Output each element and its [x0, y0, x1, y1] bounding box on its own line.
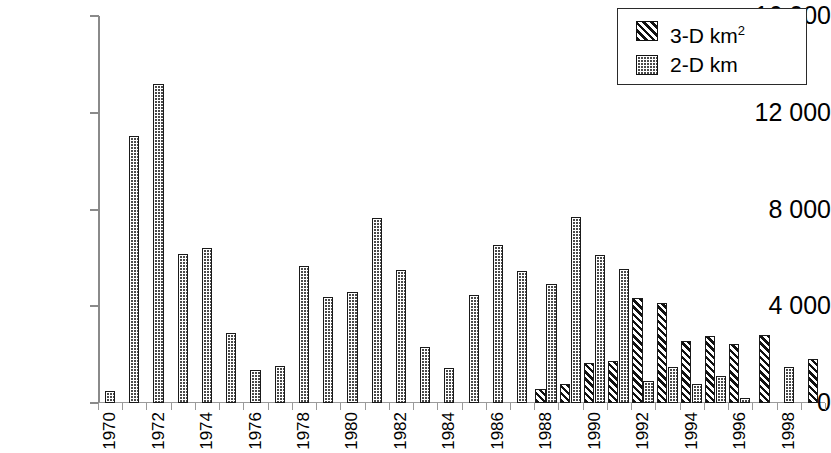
x-axis-tick-label: 1980 [343, 412, 360, 450]
bar-2d [643, 381, 653, 403]
x-axis-tick-label: 1990 [586, 412, 603, 450]
bar-2d [250, 370, 260, 403]
x-axis-tick [413, 403, 414, 410]
bar-3d [608, 361, 618, 403]
x-axis-tick [704, 403, 705, 410]
x-axis-tick-label: 1982 [392, 412, 409, 450]
diagonal-hatch-swatch [636, 21, 658, 41]
bar-2d [469, 295, 479, 403]
legend-label-3d-text: 3-D km [670, 24, 738, 47]
x-axis-tick [777, 403, 778, 410]
legend-label-3d-superscript: 2 [738, 23, 745, 38]
bar-2d [420, 347, 430, 403]
x-axis-tick [389, 403, 390, 410]
bar-2d [493, 245, 503, 403]
x-axis-tick [510, 403, 511, 410]
x-axis-tick [462, 403, 463, 410]
x-axis-tick [146, 403, 147, 410]
x-axis-tick [680, 403, 681, 410]
x-axis-tick [340, 403, 341, 410]
x-axis-tick [728, 403, 729, 410]
bar-2d [517, 271, 527, 403]
bar-3d [535, 389, 545, 404]
x-axis-tick-label: 1996 [731, 412, 748, 450]
x-axis-tick [631, 403, 632, 410]
x-axis-tick-label: 1994 [683, 412, 700, 450]
bar-2d [299, 266, 309, 403]
bar-2d [716, 376, 726, 403]
bar-2d [347, 292, 357, 403]
bar-2d [396, 270, 406, 403]
bar-2d [275, 366, 285, 403]
x-axis-tick [825, 403, 826, 410]
x-axis-tick [365, 403, 366, 410]
x-axis-tick [437, 403, 438, 410]
x-axis-tick [655, 403, 656, 410]
bar-2d [202, 248, 212, 403]
legend-label-3d: 3-D km2 [670, 19, 745, 48]
bar-3d [729, 344, 739, 403]
bar-3d [681, 341, 691, 403]
bar-2d [178, 254, 188, 403]
x-axis-tick [752, 403, 753, 410]
x-axis-tick-label: 1970 [101, 412, 118, 450]
x-axis-tick-label: 1974 [198, 412, 215, 450]
x-axis-tick [171, 403, 172, 410]
bar-3d [632, 298, 642, 403]
x-axis-tick [195, 403, 196, 410]
bar-2d [226, 333, 236, 403]
x-axis-tick [268, 403, 269, 410]
bar-2d [595, 255, 605, 403]
x-axis-tick [486, 403, 487, 410]
legend-label-2d-text: 2-D km [670, 53, 738, 76]
x-axis-tick-label: 1986 [489, 412, 506, 450]
bar-3d [808, 359, 818, 403]
x-axis-tick [98, 403, 99, 410]
bar-2d [153, 84, 163, 403]
legend-label-2d: 2-D km [670, 53, 738, 77]
bar-3d [657, 303, 667, 403]
bar-2d [105, 391, 115, 403]
x-axis-tick [219, 403, 220, 410]
bar-2d [619, 269, 629, 403]
bar-2d [546, 284, 556, 403]
x-axis-tick-label: 1976 [247, 412, 264, 450]
bar-3d [584, 363, 594, 403]
x-axis-tick [534, 403, 535, 410]
x-axis-tick [122, 403, 123, 410]
x-axis-tick [801, 403, 802, 410]
x-axis-tick [607, 403, 608, 410]
x-axis-tick [558, 403, 559, 410]
chart-legend: 3-D km2 2-D km [617, 8, 807, 85]
bar-2d [372, 218, 382, 403]
x-axis-tick [292, 403, 293, 410]
bar-2d [571, 217, 581, 403]
x-axis-tick-label: 1972 [150, 412, 167, 450]
x-axis-tick [583, 403, 584, 410]
bar-2d [323, 297, 333, 403]
bar-3d [759, 335, 769, 403]
bar-3d [560, 384, 570, 403]
bar-2d [444, 368, 454, 403]
x-axis-tick-label: 1998 [780, 412, 797, 450]
bar-2d [784, 367, 794, 403]
x-axis-tick-label: 1984 [440, 412, 457, 450]
bar-2d [129, 136, 139, 403]
dotted-swatch [636, 55, 658, 75]
bar-3d [705, 336, 715, 403]
bar-2d [668, 367, 678, 403]
bar-chart: 04 0008 00012 00016 000 1970197219741976… [0, 0, 831, 453]
x-axis-tick-label: 1978 [295, 412, 312, 450]
x-axis-tick [316, 403, 317, 410]
x-axis-tick-label: 1992 [634, 412, 651, 450]
x-axis-tick [243, 403, 244, 410]
x-axis-tick-label: 1988 [537, 412, 554, 450]
bar-2d [740, 398, 750, 403]
bar-2d [692, 384, 702, 403]
